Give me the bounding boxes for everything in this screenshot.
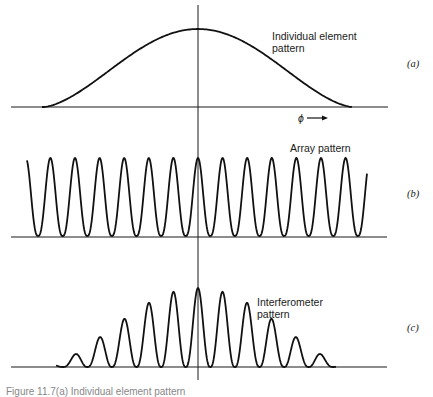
element-pattern-label: Individual element pattern — [272, 30, 357, 54]
element-pattern-label-line1: Individual element — [272, 30, 357, 42]
interferometer-label-line2: pattern — [257, 308, 323, 320]
interferometer-label-line1: Interferometer — [257, 296, 323, 308]
interferometer-pattern-label: Interferometer pattern — [257, 296, 323, 320]
panel-tag-a: (a) — [407, 58, 419, 69]
phi-arrowhead — [322, 116, 328, 121]
panel-tag-c: (c) — [407, 322, 419, 333]
panel-tag-b: (b) — [407, 188, 419, 199]
phi-label: ϕ — [298, 112, 304, 124]
array-pattern-label: Array pattern — [290, 142, 351, 154]
figure-caption: Figure 11.7(a) Individual element patter… — [6, 386, 185, 397]
element-pattern-label-line2: pattern — [272, 42, 357, 54]
array-pattern-curve — [27, 158, 367, 236]
